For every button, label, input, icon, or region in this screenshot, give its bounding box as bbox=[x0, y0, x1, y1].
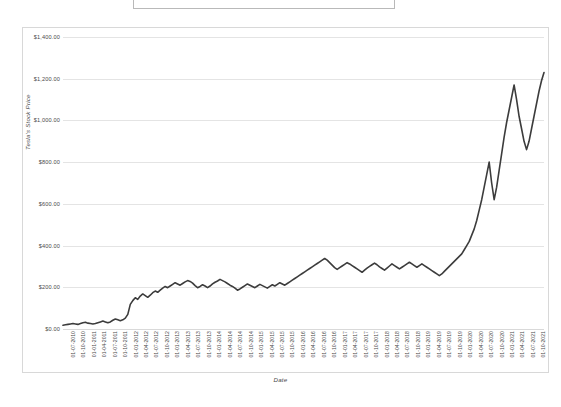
x-axis-tick-label: 01-04-2012 bbox=[143, 331, 149, 358]
x-axis-tick-label: 01-10-2020 bbox=[499, 331, 505, 358]
x-axis-tick-label: 01-07-2015 bbox=[279, 331, 285, 358]
x-axis-tick-label: 01-07-2012 bbox=[153, 331, 159, 358]
x-axis-tick-label: 01-04-2021 bbox=[519, 331, 525, 358]
price-line-series bbox=[63, 37, 544, 329]
x-axis-tick-label: 01-10-2010 bbox=[80, 331, 86, 358]
x-axis-tick-label: 01-01-2021 bbox=[509, 331, 515, 358]
y-axis-tick-label: $200.00 bbox=[39, 284, 60, 290]
x-axis-tick-label: 01-04-2014 bbox=[227, 331, 233, 358]
y-axis-tick-labels: $0.00$200.00$400.00$600.00$800.00$1,000.… bbox=[22, 37, 60, 329]
y-axis-tick-label: $0.00 bbox=[45, 326, 60, 332]
x-axis-tick-label: 01-07-2020 bbox=[488, 331, 494, 358]
x-axis-tick-label: 01-10-2012 bbox=[164, 331, 170, 358]
plot-area bbox=[63, 37, 544, 329]
chart-title-box[interactable] bbox=[133, 0, 395, 9]
x-axis-title: Date bbox=[0, 376, 561, 383]
x-axis-tick-label: 01-10-2021 bbox=[540, 331, 546, 358]
x-axis-tick-label: 01-10-2017 bbox=[373, 331, 379, 358]
y-axis-title: Tesla's Stock Price bbox=[24, 94, 31, 150]
x-axis-tick-label: 01-07-2016 bbox=[321, 331, 327, 358]
x-axis-tick-label: 01-01-2013 bbox=[174, 331, 180, 358]
x-axis-tick-label: 01-01-2017 bbox=[342, 331, 348, 358]
x-axis-tick-label: 01-07-2014 bbox=[237, 331, 243, 358]
x-axis-tick-label: 01-10-2018 bbox=[415, 331, 421, 358]
x-axis-tick-label: 01-01-2019 bbox=[425, 331, 431, 358]
y-axis-tick-label: $1,200.00 bbox=[34, 76, 60, 82]
x-axis-tick-label: 01-10-2014 bbox=[248, 331, 254, 358]
x-axis-tick-label: 01-04-2019 bbox=[436, 331, 442, 358]
price-line-path bbox=[63, 72, 544, 325]
x-axis-tick-label: 01-04-2011 bbox=[101, 331, 107, 357]
y-axis-tick-label: $800.00 bbox=[39, 159, 60, 165]
x-axis-tick-label: 01-01-2020 bbox=[467, 331, 473, 358]
x-axis-tick-label: 01-07-2010 bbox=[70, 331, 76, 358]
x-axis-tick-label: 01-01-2014 bbox=[216, 331, 222, 358]
y-axis-tick-label: $1,000.00 bbox=[34, 117, 60, 123]
x-axis-tick-label: 01-07-2017 bbox=[363, 331, 369, 358]
x-axis-tick-label: 01-10-2019 bbox=[457, 331, 463, 358]
x-axis-tick-label: 01-01-2011 bbox=[91, 331, 97, 357]
x-axis-tick-label: 01-04-2018 bbox=[394, 331, 400, 358]
x-axis-tick-label: 01-10-2013 bbox=[206, 331, 212, 358]
x-axis-tick-label: 01-07-2019 bbox=[446, 331, 452, 358]
x-axis-tick-labels: 01-07-201001-10-201001-01-201101-04-2011… bbox=[63, 331, 544, 373]
tesla-stock-price-chart: $0.00$200.00$400.00$600.00$800.00$1,000.… bbox=[0, 0, 561, 407]
y-axis-tick-label: $400.00 bbox=[39, 243, 60, 249]
x-axis-tick-label: 01-10-2011 bbox=[122, 331, 128, 357]
x-axis-tick-label: 01-04-2013 bbox=[185, 331, 191, 358]
x-axis-tick-label: 01-07-2011 bbox=[112, 331, 118, 357]
x-axis-tick-label: 01-04-2015 bbox=[269, 331, 275, 358]
x-axis-tick-label: 01-04-2020 bbox=[478, 331, 484, 358]
x-axis-tick-label: 01-01-2016 bbox=[300, 331, 306, 358]
x-axis-tick-label: 01-10-2015 bbox=[289, 331, 295, 358]
x-axis-tick-label: 01-04-2016 bbox=[310, 331, 316, 358]
x-axis-tick-label: 01-01-2015 bbox=[258, 331, 264, 358]
x-axis-tick-label: 01-07-2018 bbox=[404, 331, 410, 358]
y-axis-tick-label: $1,400.00 bbox=[34, 34, 60, 40]
x-axis-tick-label: 01-01-2018 bbox=[384, 331, 390, 358]
x-axis-tick-label: 01-10-2016 bbox=[331, 331, 337, 358]
x-axis-tick-label: 01-01-2012 bbox=[133, 331, 139, 358]
x-axis-tick-label: 01-04-2017 bbox=[352, 331, 358, 358]
x-axis-tick-label: 01-07-2013 bbox=[195, 331, 201, 358]
x-axis-tick-label: 01-07-2021 bbox=[530, 331, 536, 358]
y-axis-tick-label: $600.00 bbox=[39, 201, 60, 207]
